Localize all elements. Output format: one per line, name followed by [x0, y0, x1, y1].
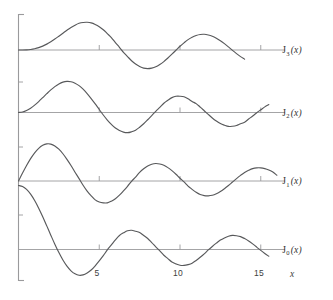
series-panel-j2	[19, 81, 286, 132]
x-axis-label: x	[289, 269, 295, 279]
series-label-j2: J2(x)	[282, 108, 302, 120]
series-panel-j1	[19, 144, 286, 203]
curve-j1	[19, 144, 277, 203]
x-tick-label-15: 15	[254, 268, 264, 278]
plot-canvas: 5 10 15 x J0(x)J1(x)J2(x)J3(x)	[0, 0, 333, 300]
x-tick-label-10: 10	[173, 268, 183, 278]
bessel-function-chart: 5 10 15 x J0(x)J1(x)J2(x)J3(x)	[0, 0, 333, 300]
series-legend: J0(x)J1(x)J2(x)J3(x)	[282, 45, 302, 256]
curve-j2	[19, 81, 269, 132]
series-label-j0: J0(x)	[282, 245, 302, 257]
y-axis-spine	[19, 14, 25, 281]
x-tick-labels: 5 10 15	[94, 268, 264, 278]
series-label-j1: J1(x)	[282, 176, 302, 188]
series-label-j3: J3(x)	[282, 45, 302, 57]
series-panels	[19, 22, 286, 275]
series-panel-j0	[19, 186, 286, 276]
curve-j3	[19, 22, 245, 68]
curve-j0	[19, 186, 269, 276]
x-tick-label-5: 5	[94, 268, 99, 278]
y-axis-ticks	[19, 82, 24, 215]
series-panel-j3	[19, 22, 286, 68]
